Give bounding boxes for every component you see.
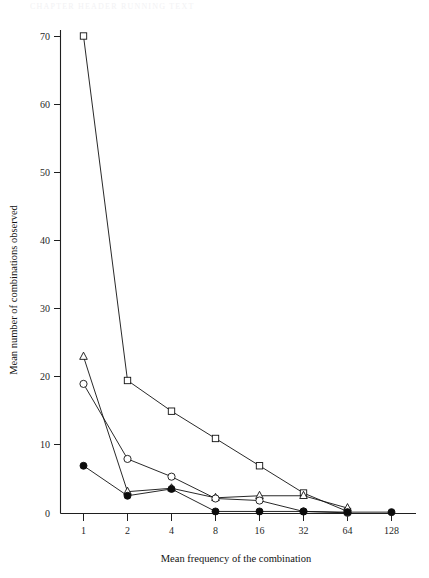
y-tick-label: 50 [40, 167, 50, 178]
y-axis-ticks [54, 37, 61, 445]
chart-figure: CHAPTER HEADER RUNNING TEXT 70 60 50 40 … [0, 0, 429, 578]
series-line-open-triangle [84, 357, 348, 508]
y-tick-label: 20 [40, 371, 50, 382]
x-tick-label: 4 [169, 525, 174, 536]
data-point-open-circle-4 [168, 473, 175, 480]
data-point-open-square-1 [80, 33, 86, 39]
page-running-header: CHAPTER HEADER RUNNING TEXT [30, 2, 260, 11]
data-point-filled-circle-4 [168, 485, 175, 492]
data-point-open-square-8 [212, 435, 218, 441]
y-tick-label: 40 [40, 235, 50, 246]
x-tick-label: 32 [299, 525, 309, 536]
data-point-filled-circle-128 [388, 509, 395, 516]
y-tick-label: 30 [40, 303, 50, 314]
x-tick-label: 16 [255, 525, 265, 536]
data-point-filled-circle-1 [80, 462, 87, 469]
data-point-open-square-4 [168, 408, 174, 414]
data-point-filled-circle-16 [256, 508, 263, 515]
x-axis-title: Mean frequency of the combination [161, 553, 312, 564]
data-point-open-circle-16 [256, 497, 263, 504]
x-tick-label: 8 [213, 525, 218, 536]
x-tick-label: 1 [81, 525, 86, 536]
data-point-filled-circle-64 [344, 509, 351, 516]
y-tick-label: 60 [40, 99, 50, 110]
data-point-open-circle-8 [212, 495, 219, 502]
x-tick-label: 128 [384, 525, 399, 536]
data-point-filled-circle-32 [300, 508, 307, 515]
y-axis-tick-labels: 70 60 50 40 30 20 10 0 [40, 31, 50, 519]
plot-series-layer [80, 33, 395, 517]
data-point-filled-circle-8 [212, 508, 219, 515]
data-point-open-triangle-1 [80, 352, 88, 359]
chart-canvas: 70 60 50 40 30 20 10 0 1 2 4 8 16 [0, 0, 429, 578]
data-point-open-square-2 [124, 377, 130, 383]
y-tick-label: 70 [40, 31, 50, 42]
data-point-open-circle-1 [80, 380, 87, 387]
series-line-filled-circle [84, 466, 392, 512]
x-tick-label: 64 [343, 525, 353, 536]
data-point-filled-circle-2 [124, 492, 131, 499]
x-tick-label: 2 [125, 525, 130, 536]
y-axis-title: Mean number of combinations observed [8, 204, 19, 374]
data-point-open-square-16 [256, 463, 262, 469]
series-open-triangle [80, 352, 352, 511]
y-tick-label: 0 [45, 508, 50, 519]
y-tick-label: 10 [40, 439, 50, 450]
data-point-open-circle-2 [124, 455, 131, 462]
series-open-square [80, 33, 350, 515]
x-axis-tick-labels: 1 2 4 8 16 32 64 128 [81, 525, 399, 536]
